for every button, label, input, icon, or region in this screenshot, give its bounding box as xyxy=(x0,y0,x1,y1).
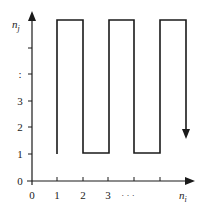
x-tick-3: 3 xyxy=(105,189,111,201)
y-tick-0: 0 xyxy=(17,175,23,187)
x-tick-2: 2 xyxy=(80,189,86,201)
y-axis xyxy=(28,11,36,185)
x-tick-0: 0 xyxy=(29,189,35,201)
y-tick-1: 1 xyxy=(17,148,23,160)
x-tick-ellipsis: · · · xyxy=(121,190,135,200)
x-tick-labels: 0 1 2 3 · · · xyxy=(29,189,135,201)
step-path xyxy=(57,20,190,154)
y-tick-2: 2 xyxy=(17,121,23,133)
x-axis-arrow-icon xyxy=(185,177,195,185)
y-tick-3: 3 xyxy=(17,95,23,107)
x-tick-1: 1 xyxy=(54,189,60,201)
y-axis-label: nj xyxy=(12,18,21,33)
path-end-arrow-icon xyxy=(182,129,190,139)
y-tick-ellipsis: : xyxy=(18,68,21,80)
diagram-canvas: 0 1 2 3 : 0 1 2 3 · · · nj ni xyxy=(0,0,202,217)
y-tick-labels: 0 1 2 3 : xyxy=(17,68,23,187)
y-axis-arrow-icon xyxy=(28,11,36,21)
x-axis xyxy=(27,177,195,185)
x-axis-label: ni xyxy=(179,189,187,204)
